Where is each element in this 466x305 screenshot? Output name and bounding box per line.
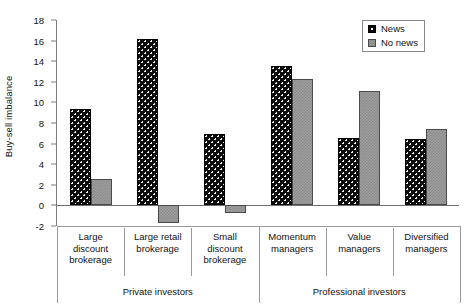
x-axis-category-5: Valuemanagers — [326, 226, 393, 278]
y-axis-tick-label: -2 — [18, 221, 44, 232]
bar-news — [70, 109, 91, 206]
group-separator — [259, 226, 260, 303]
x-axis-category-2: Large retailbrokerage — [124, 226, 191, 278]
x-axis-category-3: Smalldiscountbrokerage — [191, 226, 258, 278]
bar-news — [338, 138, 359, 205]
y-axis-tick-label: 10 — [18, 97, 44, 108]
legend-item-news: News — [368, 24, 418, 33]
y-axis-tick-mark — [51, 123, 56, 124]
x-axis-category-label: Largediscountbrokerage — [69, 231, 112, 266]
y-axis-tick-label: 6 — [18, 138, 44, 149]
x-axis-category-label: Momentummanagers — [268, 231, 316, 254]
category-separator — [191, 228, 192, 276]
y-axis-tick-mark — [51, 81, 56, 82]
y-axis-tick-label: 18 — [18, 15, 44, 26]
category-separator — [393, 228, 394, 276]
y-axis-tick-mark — [51, 20, 56, 21]
bar-no-news — [91, 179, 112, 206]
bar-no-news — [225, 205, 246, 212]
y-axis-title: Buy-sell imbalance — [2, 0, 16, 232]
x-axis-category-1: Largediscountbrokerage — [57, 226, 124, 278]
legend-label-no-news: No news — [381, 38, 418, 47]
legend: News No news — [362, 20, 425, 52]
bar-no-news — [359, 91, 380, 205]
bar-news — [405, 139, 426, 205]
y-axis-tick-label: 0 — [18, 200, 44, 211]
bar-no-news — [158, 205, 179, 223]
x-axis-group-label: Professional investors — [313, 286, 406, 297]
y-axis-tick-label: 8 — [18, 118, 44, 129]
y-axis-tick-mark — [51, 184, 56, 185]
x-axis: LargediscountbrokerageLarge retailbroker… — [57, 226, 460, 305]
axis-frame-rule — [57, 226, 58, 303]
y-axis-tick-mark — [51, 226, 56, 227]
x-axis-category-label: Diversifiedmanagers — [404, 231, 448, 254]
y-axis-tick-mark — [51, 102, 56, 103]
y-axis-tick-label: 16 — [18, 35, 44, 46]
x-axis-category-6: Diversifiedmanagers — [393, 226, 460, 278]
y-axis-tick-mark — [51, 143, 56, 144]
bar-chart: Buy-sell imbalance 181614121086420-2 New… — [0, 0, 466, 305]
x-axis-category-4: Momentummanagers — [259, 226, 326, 278]
bar-no-news — [292, 79, 313, 206]
axis-frame-rule — [460, 226, 461, 303]
bar-news — [137, 39, 158, 206]
x-axis-category-label: Smalldiscountbrokerage — [204, 231, 247, 266]
x-axis-group-1: Private investors — [57, 278, 259, 305]
x-axis-category-label: Large retailbrokerage — [134, 231, 182, 254]
bar-no-news — [426, 129, 447, 205]
y-axis-tick-mark — [51, 40, 56, 41]
y-axis-tick-label: 4 — [18, 159, 44, 170]
y-axis-tick-label: 2 — [18, 179, 44, 190]
x-axis-band-top-rule — [57, 226, 460, 227]
x-axis-group-2: Professional investors — [259, 278, 461, 305]
y-axis-tick-mark — [51, 164, 56, 165]
y-axis-tick-labels: 181614121086420-2 — [18, 0, 44, 232]
y-axis-tick-mark — [51, 61, 56, 62]
bar-news — [204, 134, 225, 205]
no-news-swatch-icon — [368, 39, 376, 47]
y-axis-title-text: Buy-sell imbalance — [4, 75, 15, 157]
category-separator — [326, 228, 327, 276]
legend-label-news: News — [381, 24, 405, 33]
news-swatch-icon — [368, 25, 376, 33]
x-axis-category-label: Valuemanagers — [338, 231, 380, 254]
bar-news — [271, 66, 292, 205]
legend-item-no-news: No news — [368, 38, 418, 47]
y-axis-tick-label: 12 — [18, 76, 44, 87]
category-separator — [124, 228, 125, 276]
x-axis-group-label: Private investors — [123, 286, 193, 297]
y-axis-tick-label: 14 — [18, 56, 44, 67]
